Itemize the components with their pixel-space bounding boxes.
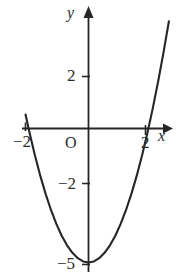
y-axis-name-label: y xyxy=(67,5,74,21)
y-axis-arrow-icon xyxy=(84,6,94,18)
x-axis-name-label: x xyxy=(158,128,165,144)
y-axis-label-pos2: 2 xyxy=(67,67,76,84)
y-axis-label-neg5: −5 xyxy=(57,255,75,272)
origin-label: O xyxy=(65,135,77,151)
x-axis-label-pos2: 2 xyxy=(141,134,150,151)
y-axis-label-neg2: −2 xyxy=(58,175,76,192)
x-axis-label-neg2: −2 xyxy=(13,133,31,150)
parabola-figure: −2 2 2 −2 −5 x y O xyxy=(0,0,177,277)
